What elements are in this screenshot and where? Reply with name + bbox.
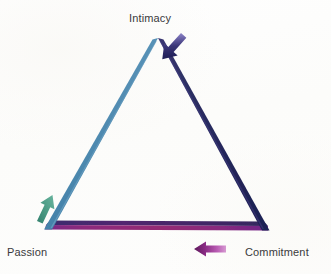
left-edge-face [44,38,158,230]
vertex-label-passion: Passion [7,246,47,259]
left-edge-highlight [51,41,157,228]
vertex-label-commitment: Commitment [245,246,309,259]
vertex-label-intimacy: Intimacy [129,12,171,25]
right-edge-highlight [160,41,265,229]
edge-passion-commitment [45,221,268,231]
arrow-commitment-to-passion [194,241,226,256]
edge-intimacy-commitment [158,38,270,231]
love-triangle-figure [0,0,331,274]
figure-canvas: Intimacy Passion Commitment [0,0,331,274]
arrow-magenta-shape [194,241,226,256]
edge-intimacy-passion [44,38,158,230]
